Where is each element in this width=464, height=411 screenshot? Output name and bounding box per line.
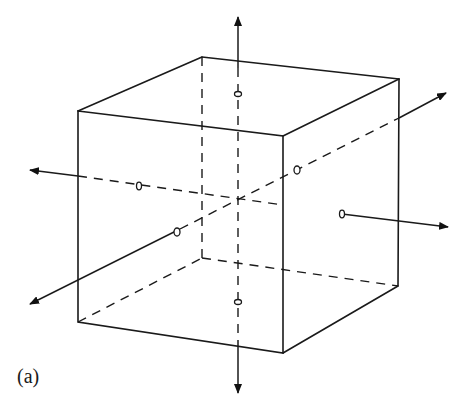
marker-back	[294, 166, 300, 174]
marker-top	[235, 92, 242, 97]
marker-left	[137, 182, 142, 190]
figure-caption: (a)	[17, 365, 39, 388]
cube-axes-diagram	[0, 0, 464, 411]
marker-bottom	[235, 300, 242, 305]
marker-right	[340, 210, 345, 218]
marker-front	[174, 228, 180, 236]
